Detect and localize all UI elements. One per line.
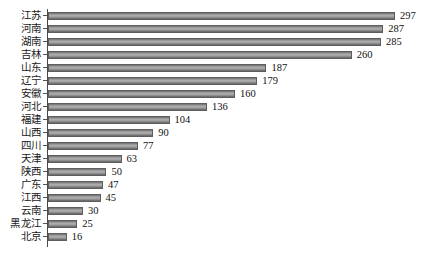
category-label: 江西 <box>0 191 44 204</box>
axis-tick <box>43 210 47 211</box>
axis-tick <box>43 15 47 16</box>
bar-value-label: 50 <box>111 165 122 178</box>
bar <box>48 51 352 59</box>
bar-fill <box>48 116 170 124</box>
bar-value-label: 187 <box>271 61 287 74</box>
category-label: 福建 <box>0 113 44 126</box>
bar <box>48 38 381 46</box>
bar-row: 安徽160 <box>0 87 426 100</box>
axis-tick <box>43 158 47 159</box>
bar <box>48 77 257 85</box>
bar-row: 云南30 <box>0 204 426 217</box>
axis-tick <box>43 171 47 172</box>
bar-value-label: 160 <box>240 87 256 100</box>
bar-row: 吉林260 <box>0 48 426 61</box>
bar-fill <box>48 103 207 111</box>
bar-row: 湖南285 <box>0 35 426 48</box>
bar-value-label: 136 <box>212 100 228 113</box>
axis-tick <box>43 223 47 224</box>
bar-row: 黑龙江25 <box>0 217 426 230</box>
bar <box>48 25 383 33</box>
category-label: 湖南 <box>0 35 44 48</box>
category-label: 河南 <box>0 22 44 35</box>
bar <box>48 142 138 150</box>
category-label: 陕西 <box>0 165 44 178</box>
bar <box>48 116 170 124</box>
bar <box>48 129 153 137</box>
bar <box>48 155 122 163</box>
bar-fill <box>48 64 266 72</box>
bar-fill <box>48 155 122 163</box>
bar <box>48 90 235 98</box>
bar-fill <box>48 25 383 33</box>
bar <box>48 168 106 176</box>
axis-tick <box>43 236 47 237</box>
category-label: 河北 <box>0 100 44 113</box>
bar-row: 四川77 <box>0 139 426 152</box>
bar-row: 陕西50 <box>0 165 426 178</box>
bar-row: 天津63 <box>0 152 426 165</box>
bar-value-label: 77 <box>143 139 154 152</box>
bar-fill <box>48 129 153 137</box>
category-label: 吉林 <box>0 48 44 61</box>
category-label: 辽宁 <box>0 74 44 87</box>
category-label: 江苏 <box>0 9 44 22</box>
bar-fill <box>48 220 77 228</box>
bar-value-label: 25 <box>82 217 93 230</box>
bar-row: 山西90 <box>0 126 426 139</box>
bar-fill <box>48 12 395 20</box>
axis-tick <box>43 132 47 133</box>
bar <box>48 220 77 228</box>
category-label: 北京 <box>0 230 44 243</box>
bar <box>48 233 67 241</box>
bar-value-label: 45 <box>106 191 117 204</box>
axis-tick <box>43 80 47 81</box>
axis-tick <box>43 54 47 55</box>
axis-tick <box>43 93 47 94</box>
bar-value-label: 179 <box>262 74 278 87</box>
bar-row: 河北136 <box>0 100 426 113</box>
bar-value-label: 16 <box>72 230 83 243</box>
bar-fill <box>48 181 103 189</box>
bar-fill <box>48 77 257 85</box>
bar-value-label: 90 <box>158 126 169 139</box>
bar-row: 江苏297 <box>0 9 426 22</box>
category-label: 山东 <box>0 61 44 74</box>
axis-tick <box>43 106 47 107</box>
bar-fill <box>48 38 381 46</box>
bar-row: 北京16 <box>0 230 426 243</box>
bar-row: 辽宁179 <box>0 74 426 87</box>
bar-value-label: 285 <box>386 35 402 48</box>
bar-rows-container: 江苏297河南287湖南285吉林260山东187辽宁179安徽160河北136… <box>0 9 426 243</box>
bar <box>48 194 101 202</box>
axis-tick <box>43 67 47 68</box>
category-label: 天津 <box>0 152 44 165</box>
bar-row: 广东47 <box>0 178 426 191</box>
bar <box>48 12 395 20</box>
axis-tick <box>43 197 47 198</box>
category-label: 安徽 <box>0 87 44 100</box>
bar-value-label: 260 <box>357 48 373 61</box>
bar-row: 江西45 <box>0 191 426 204</box>
bar <box>48 64 266 72</box>
category-label: 四川 <box>0 139 44 152</box>
category-label: 黑龙江 <box>0 217 44 230</box>
bar-value-label: 287 <box>388 22 404 35</box>
bar-fill <box>48 233 67 241</box>
category-label: 广东 <box>0 178 44 191</box>
bar-row: 山东187 <box>0 61 426 74</box>
axis-tick <box>43 41 47 42</box>
bar-value-label: 63 <box>127 152 138 165</box>
category-label: 山西 <box>0 126 44 139</box>
bar-value-label: 297 <box>400 9 416 22</box>
bar-value-label: 47 <box>108 178 119 191</box>
axis-tick <box>43 145 47 146</box>
category-label: 云南 <box>0 204 44 217</box>
axis-tick <box>43 184 47 185</box>
bar-fill <box>48 168 106 176</box>
axis-tick <box>43 28 47 29</box>
bar <box>48 181 103 189</box>
bar-fill <box>48 90 235 98</box>
bar <box>48 103 207 111</box>
bar-fill <box>48 142 138 150</box>
